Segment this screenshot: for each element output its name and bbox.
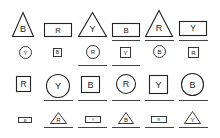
square-shape: R <box>188 47 199 58</box>
shape-letter-label: Y <box>190 24 196 33</box>
square-shape: R <box>16 76 31 92</box>
underline-divider <box>112 65 140 66</box>
underline-divider <box>112 100 140 101</box>
rectangle-shape: B <box>18 117 32 123</box>
shape-letter-label: R <box>55 26 61 35</box>
underline-divider <box>112 40 140 41</box>
shape-letter-label: Y <box>123 50 127 56</box>
shape-letter-label: R <box>91 49 96 55</box>
shape-letter-label: B <box>157 49 161 55</box>
circle-shape: R <box>86 45 100 59</box>
triangle-outline-icon: B <box>12 12 34 37</box>
square-shape: Y <box>120 47 131 58</box>
circle-shape: B <box>153 45 166 58</box>
rectangle-shape: R <box>151 116 167 123</box>
triangle-outline-icon: B <box>118 112 134 124</box>
circle-shape: Y <box>46 74 70 98</box>
underline-divider <box>179 40 208 41</box>
underline-divider <box>145 127 174 128</box>
square-outline-icon: Y <box>149 75 168 94</box>
shape-letter-label: R <box>56 117 61 123</box>
rectangle-outline-icon: Y <box>179 21 207 36</box>
triangle-outline-icon: R <box>50 112 67 124</box>
triangle-outline-icon: Y <box>184 111 201 124</box>
square-shape: Y <box>149 75 168 94</box>
shape-letter-label: Y <box>92 117 95 122</box>
square-shape: B <box>53 48 62 57</box>
shape-letter-label: B <box>123 26 128 35</box>
underline-divider <box>44 127 73 128</box>
shape-letter-label: Y <box>155 80 161 90</box>
circle-outline-icon: Y <box>46 74 70 98</box>
underline-divider <box>78 65 107 66</box>
shape-letter-label: R <box>156 23 163 33</box>
circle-outline-icon: Y <box>19 46 32 59</box>
shape-letter-label: R <box>21 80 27 89</box>
square-shape: B <box>81 76 100 93</box>
triangle-outline-icon: Y <box>78 12 107 37</box>
triangle-outline-icon: R <box>145 10 173 37</box>
circle-shape: B <box>181 73 204 96</box>
triangle-shape: R <box>50 112 67 124</box>
underline-divider <box>44 100 73 101</box>
square-outline-icon: R <box>188 47 199 58</box>
circle-outline-icon: B <box>181 73 204 96</box>
square-outline-icon: B <box>53 48 62 57</box>
shape-letter-label: B <box>87 80 93 90</box>
underline-divider <box>179 100 208 101</box>
underline-divider <box>179 127 208 128</box>
shape-letter-label: Y <box>55 81 61 91</box>
shape-letter-label: B <box>56 50 60 55</box>
underline-divider <box>112 127 140 128</box>
square-outline-icon: Y <box>120 47 131 58</box>
underline-divider <box>145 100 174 101</box>
shape-letter-label: R <box>158 117 161 122</box>
circle-outline-icon: R <box>116 74 136 94</box>
underline-divider <box>78 127 107 128</box>
square-outline-icon: R <box>16 76 31 92</box>
circle-shape: R <box>116 74 136 94</box>
circle-outline-icon: B <box>153 45 166 58</box>
rectangle-outline-icon: R <box>44 23 72 37</box>
shape-letter-label: B <box>20 24 26 34</box>
rectangle-shape: Y <box>179 21 207 36</box>
shape-letter-label: B <box>124 117 128 123</box>
triangle-shape: Y <box>78 12 107 37</box>
shape-letter-label: Y <box>89 24 95 34</box>
underline-divider <box>145 40 174 41</box>
circle-shape: Y <box>19 46 32 59</box>
triangle-shape: Y <box>184 111 201 124</box>
rectangle-outline-icon: Y <box>85 116 101 123</box>
shape-grid-figure: BRYBRYYBRYBRRYBRYBBRYBRY <box>0 0 220 138</box>
rectangle-shape: Y <box>85 116 101 123</box>
underline-divider <box>78 100 107 101</box>
circle-outline-icon: R <box>86 45 100 59</box>
shape-letter-label: B <box>24 118 27 123</box>
triangle-shape: R <box>145 10 173 37</box>
rectangle-shape: B <box>112 23 140 37</box>
rectangle-outline-icon: B <box>18 117 32 123</box>
square-outline-icon: B <box>81 76 100 93</box>
triangle-shape: B <box>12 12 34 37</box>
triangle-shape: B <box>118 112 134 124</box>
shape-letter-label: R <box>123 79 130 89</box>
rectangle-shape: R <box>44 23 72 37</box>
shape-letter-label: B <box>189 80 195 90</box>
shape-letter-label: R <box>191 50 196 56</box>
shape-letter-label: Y <box>23 50 27 56</box>
shape-letter-label: Y <box>190 117 194 123</box>
rectangle-outline-icon: R <box>151 116 167 123</box>
rectangle-outline-icon: B <box>112 23 140 37</box>
